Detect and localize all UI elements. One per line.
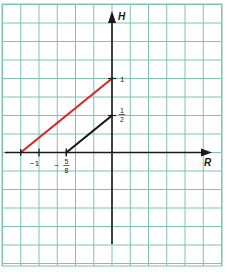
h-axis-label: H <box>118 11 126 22</box>
r-axis-label: R <box>204 157 212 168</box>
x-tick-label-minus-5-8-denominator: 8 <box>64 167 68 174</box>
axes: R H <box>5 11 212 244</box>
r-axis-arrow-icon <box>201 149 212 157</box>
ticks: −1 − 5 8 1 1 2 <box>30 75 125 174</box>
chart: R H −1 − 5 8 1 1 2 <box>0 0 227 275</box>
x-tick-label-minus-1: −1 <box>30 159 40 168</box>
x-tick-label-minus-5-8-numerator: 5 <box>64 158 68 165</box>
x-tick-label-minus-5-8-sign: − <box>54 161 59 170</box>
y-tick-label-1-2-numerator: 1 <box>120 107 124 114</box>
h-axis-arrow-icon <box>108 11 116 23</box>
series-group <box>21 79 112 157</box>
y-tick-label-1-2-denominator: 2 <box>120 116 124 123</box>
y-tick-label-1: 1 <box>120 75 125 84</box>
